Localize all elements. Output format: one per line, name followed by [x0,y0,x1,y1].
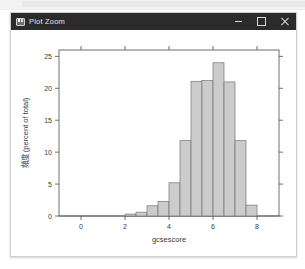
x-tick-label: 6 [211,223,215,230]
histogram-bar [158,201,169,216]
histogram-svg: 051015202502468 頻度 (percent of total) gc… [11,30,296,256]
plot-window-icon [16,18,25,26]
x-axis-title: gcsescore [152,235,186,244]
histogram-bar [246,205,257,216]
x-tick-label: 4 [167,223,171,230]
x-tick-label: 0 [79,223,83,230]
y-axis-title: 頻度 (percent of total) [20,97,30,168]
histogram-bar [213,63,224,216]
minimize-icon [235,21,242,22]
y-tick-label: 15 [44,117,52,124]
maximize-button[interactable] [250,13,273,30]
desktop-top-strip [0,0,305,10]
x-tick-label: 2 [123,223,127,230]
histogram-bar [180,141,191,216]
minimize-button[interactable] [227,13,250,30]
y-tick-label: 10 [44,149,52,156]
y-tick-label: 20 [44,85,52,92]
histogram-bar [169,183,180,216]
histogram-bar [224,82,235,216]
histogram-bar [202,81,213,216]
y-tick-label: 25 [44,53,52,60]
window-title: Plot Zoom [29,17,65,26]
plot-canvas: 051015202502468 頻度 (percent of total) gc… [11,30,296,256]
histogram-bar [125,214,136,216]
top-strip-fill [22,1,305,7]
histogram-bar [136,212,147,216]
screenshot-root: Plot Zoom 051015202502468 頻度 (percent of… [0,0,305,269]
maximize-icon [257,17,266,26]
histogram-bar [147,206,158,216]
window-titlebar[interactable]: Plot Zoom [11,13,296,30]
histogram-bar [191,81,202,216]
y-tick-label: 5 [48,181,52,188]
histogram-bar [235,141,246,216]
y-tick-label: 0 [48,213,52,220]
plot-zoom-window: Plot Zoom 051015202502468 頻度 (percent of… [10,12,297,257]
close-icon [281,18,289,26]
x-tick-label: 8 [255,223,259,230]
close-button[interactable] [273,13,296,30]
window-controls [227,13,296,30]
